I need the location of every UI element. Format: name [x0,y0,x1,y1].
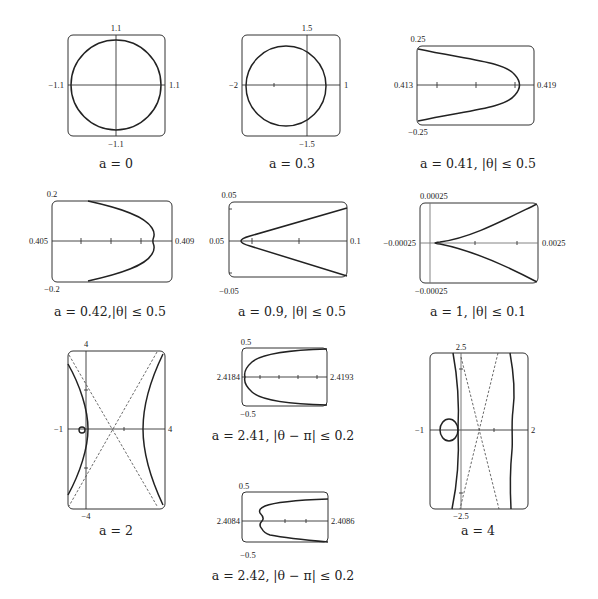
tick-bottom: −2.5 [453,511,468,521]
asymptote [460,353,498,509]
plot-frame [52,201,172,282]
caption: a = 0.41, |θ| ≤ 0.5 [420,156,536,171]
tick-top: 0.05 [222,190,237,200]
figure: 1.1 −1.1 −1.1 1.1 a = 0 1.5 −1.5 −2 1 a … [0,0,598,599]
panel-a0.3: 1.5 −1.5 −2 1 a = 0.3 [229,23,348,171]
panel-a0.9: 0.05 −0.05 0.05 0.1 a = 0.9, |θ| ≤ 0.5 [209,190,361,319]
curve [246,46,326,126]
tick-right: 0.419 [537,80,556,90]
caption: a = 4 [461,523,495,538]
tick-top: 0.2 [47,189,58,199]
tick-bottom: −0.2 [44,284,59,294]
tick-left: 0.05 [209,236,224,246]
tick-bottom: −0.05 [219,286,239,296]
asymptote [461,357,499,509]
small-loop [79,427,85,433]
caption: a = 2.41, |θ − π| ≤ 0.2 [212,428,355,443]
tick-bottom: −1.5 [299,139,314,149]
tick-left: −1 [415,425,424,435]
tick-bottom: −4 [81,511,91,521]
tick-right: 0.0025 [542,238,565,248]
tick-left: −0.00025 [384,238,416,248]
tick-bottom: −0.5 [240,550,255,560]
caption: a = 0 [99,156,133,171]
curve-right [510,353,514,509]
tick-bottom: −0.25 [408,127,428,137]
tick-top: 4 [84,339,89,349]
tick-left: 0.413 [394,80,413,90]
tick-top: 0.25 [411,34,426,44]
panel-a0.41: 0.25 −0.25 0.413 0.419 a = 0.41, |θ| ≤ 0… [394,34,556,171]
tick-right: 2.4193 [330,372,353,382]
tick-left: 0.405 [29,236,48,246]
tick-right: 0.409 [175,236,194,246]
caption: a = 2 [99,523,133,538]
tick-left: −1.1 [49,80,64,90]
tick-left: 2.4084 [217,516,241,526]
panel-a2.42: 0.5 −0.5 2.4084 2.4086 a = 2.42, |θ − π|… [212,481,355,583]
plot-frame [68,35,165,136]
tick-bottom: −1.1 [108,139,123,149]
tick-right: 4 [168,424,173,434]
panel-a2: 4 −4 −1 4 a = 2 [54,339,173,538]
panel-a1: 0.00025 −0.00025 −0.00025 0.0025 a = 1, … [384,191,566,319]
tick-bottom: −0.00025 [415,286,447,296]
tick-left: −2 [229,80,238,90]
tick-right: 1 [344,80,348,90]
tick-right: 2.4086 [331,516,354,526]
caption: a = 1, |θ| ≤ 0.1 [430,304,526,319]
tick-left: 2.4184 [217,372,241,382]
tick-right: 1.1 [169,80,180,90]
panel-a4: 2.5 −2.5 −1 2 a = 4 [415,342,535,538]
panel-a2.41: 0.5 −0.5 2.4184 2.4193 a = 2.41, |θ − π|… [212,337,355,443]
plot-frame [417,46,534,125]
tick-top: 2.5 [456,342,467,352]
tick-top: 0.00025 [420,191,448,201]
tick-bottom: −0.5 [240,409,255,419]
curve [241,208,347,276]
panel-a0.42: 0.2 −0.2 0.405 0.409 a = 0.42,|θ| ≤ 0.5 [29,189,194,319]
plot-frame [68,351,165,509]
tick-top: 1.5 [302,23,313,33]
curve-right [143,354,163,505]
tick-top: 1.1 [111,23,122,33]
curve [260,499,328,542]
caption: a = 0.3 [269,156,315,171]
tick-top: 0.5 [241,337,252,347]
tick-top: 0.5 [239,481,250,491]
caption: a = 0.9, |θ| ≤ 0.5 [238,304,346,319]
tick-right: 2 [531,425,535,435]
caption: a = 0.42,|θ| ≤ 0.5 [54,304,166,319]
tick-right: 0.1 [350,236,361,246]
caption: a = 2.42, |θ − π| ≤ 0.2 [212,568,355,583]
tick-left: −1 [54,424,63,434]
panel-a0: 1.1 −1.1 −1.1 1.1 a = 0 [49,23,180,171]
